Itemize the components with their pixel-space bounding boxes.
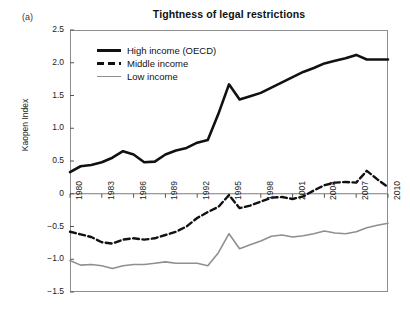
legend-swatch-icon	[97, 45, 121, 56]
x-tick-label: 2004	[328, 181, 338, 200]
legend-label: Middle income	[127, 58, 188, 69]
legend-swatch-icon	[97, 71, 121, 82]
chart-figure: (a) Tightness of legal restrictions Kaop…	[0, 0, 410, 314]
y-tick-label: −0.5	[34, 221, 64, 231]
x-tick-label: 1992	[201, 181, 211, 200]
y-tick-label: 1.5	[34, 90, 64, 100]
y-tick-label: 2.0	[34, 57, 64, 67]
legend-item: Middle income	[97, 57, 216, 70]
x-tick-label: 1983	[106, 181, 116, 200]
legend-label: Low income	[127, 71, 178, 82]
legend-swatch-icon	[97, 58, 121, 69]
legend-item: Low income	[97, 70, 216, 83]
x-tick-label: 1989	[169, 181, 179, 200]
y-tick-label: 2.5	[34, 24, 64, 34]
x-tick-label: 1995	[233, 181, 243, 200]
y-tick-label: −1.5	[34, 286, 64, 296]
series-line	[70, 223, 388, 268]
x-tick-label: 1998	[265, 181, 275, 200]
y-tick-label: 1.0	[34, 122, 64, 132]
x-tick-label: 1980	[74, 181, 84, 200]
x-tick-label: 2001	[297, 181, 307, 200]
chart-legend: High income (OECD)Middle incomeLow incom…	[97, 44, 216, 83]
x-tick-label: 2007	[360, 181, 370, 200]
legend-label: High income (OECD)	[127, 45, 216, 56]
y-tick-label: −1.0	[34, 253, 64, 263]
x-tick-label: 2010	[392, 181, 402, 200]
x-tick-label: 1986	[138, 181, 148, 200]
y-tick-label: 0	[34, 188, 64, 198]
series-lines	[70, 55, 388, 269]
legend-item: High income (OECD)	[97, 44, 216, 57]
y-tick-marks	[70, 30, 74, 292]
y-tick-label: 0.5	[34, 155, 64, 165]
